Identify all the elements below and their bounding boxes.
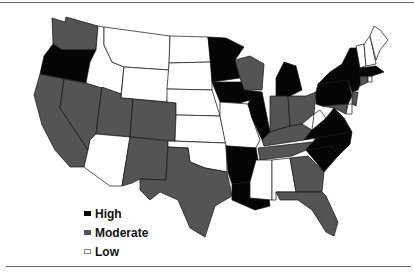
state-north-dakota <box>169 36 212 63</box>
bottom-rule <box>6 266 411 267</box>
state-south-dakota <box>167 62 212 90</box>
legend-label-moderate: Moderate <box>95 226 148 240</box>
state-michigan <box>276 62 302 96</box>
swatch-moderate-icon <box>84 230 91 235</box>
state-pennsylvania <box>316 80 352 106</box>
legend-item-high: High <box>84 204 148 223</box>
map-legend: High Moderate Low <box>84 204 148 261</box>
state-connecticut <box>360 76 368 86</box>
swatch-low-icon <box>84 249 91 254</box>
legend-label-low: Low <box>95 245 119 259</box>
swatch-high-icon <box>84 211 91 216</box>
state-colorado <box>130 99 176 141</box>
legend-item-moderate: Moderate <box>84 223 148 242</box>
state-new-jersey <box>352 92 358 106</box>
us-choropleth-map <box>0 0 414 276</box>
state-rhode-island <box>368 76 372 82</box>
state-washington <box>52 17 98 50</box>
legend-label-high: High <box>95 207 122 221</box>
state-wyoming <box>121 67 169 102</box>
state-kansas <box>175 115 226 143</box>
state-massachusetts <box>360 66 384 76</box>
state-ohio <box>288 92 316 126</box>
state-florida <box>276 192 338 236</box>
state-new-mexico <box>122 137 168 186</box>
legend-item-low: Low <box>84 242 148 261</box>
